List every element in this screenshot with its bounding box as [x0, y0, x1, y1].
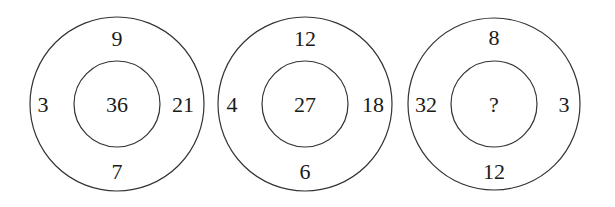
right-number: 21	[172, 92, 194, 117]
right-number: 18	[362, 92, 384, 117]
left-number: 32	[415, 92, 437, 117]
center-unknown: ?	[489, 92, 499, 117]
top-number: 8	[489, 25, 500, 50]
number-circles-puzzle: 9 3 21 7 36 12 4 18 6 27 8 32 3 12 ?	[0, 0, 615, 207]
puzzle-circle-2: 12 4 18 6 27	[218, 17, 392, 191]
puzzle-circle-1: 9 3 21 7 36	[30, 17, 204, 191]
bottom-number: 7	[112, 159, 123, 184]
left-number: 3	[38, 92, 49, 117]
left-number: 4	[227, 92, 238, 117]
top-number: 9	[112, 26, 123, 51]
top-number: 12	[294, 26, 316, 51]
puzzle-circle-3: 8 32 3 12 ?	[408, 18, 580, 190]
bottom-number: 6	[300, 159, 311, 184]
center-number: 27	[294, 92, 316, 117]
bottom-number: 12	[483, 159, 505, 184]
right-number: 3	[559, 92, 570, 117]
center-number: 36	[106, 92, 128, 117]
